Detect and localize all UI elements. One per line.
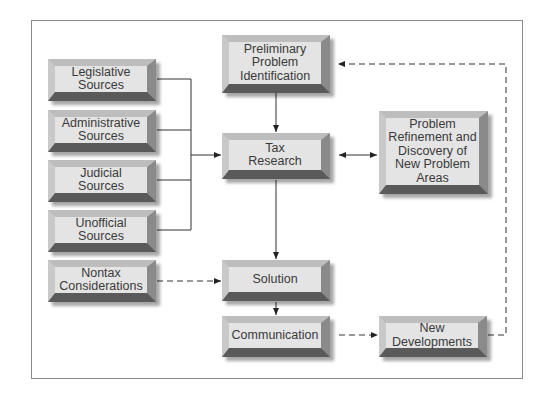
node-label: Considerations xyxy=(59,280,142,294)
node-unofficial-sources: UnofficialSources xyxy=(48,210,156,252)
newdev-to-preliminary-arrow xyxy=(338,64,506,335)
node-label: Sources xyxy=(62,130,141,144)
node-label: Unofficial xyxy=(75,217,126,231)
node-new-developments: NewDevelopments xyxy=(379,316,487,357)
node-label: Identification xyxy=(240,70,310,84)
node-label: Preliminary xyxy=(240,43,310,57)
node-label: Communication xyxy=(232,329,319,343)
node-administrative-sources: AdministrativeSources xyxy=(48,110,156,152)
node-preliminary-problem-identification: PreliminaryProblemIdentification xyxy=(222,35,330,93)
node-label: Sources xyxy=(78,180,124,194)
node-label: New Problem xyxy=(388,158,476,172)
node-label: Discovery of xyxy=(388,145,476,159)
node-label: Legislative xyxy=(71,66,130,80)
node-problem-refinement: ProblemRefinement andDiscovery ofNew Pro… xyxy=(379,111,488,194)
node-solution: Solution xyxy=(222,260,330,301)
node-label: Problem xyxy=(388,118,476,132)
node-label: Sources xyxy=(75,230,126,244)
node-label: Developments xyxy=(392,336,472,350)
node-label: Problem xyxy=(240,56,310,70)
node-label: Judicial xyxy=(78,167,124,181)
node-label: Solution xyxy=(252,273,297,287)
node-label: Tax xyxy=(248,142,302,156)
node-label: Nontax xyxy=(59,267,142,281)
node-tax-research: TaxResearch xyxy=(222,133,330,179)
node-legislative-sources: LegislativeSources xyxy=(48,59,156,101)
node-label: Sources xyxy=(71,79,130,93)
node-label: Refinement and xyxy=(388,131,476,145)
node-judicial-sources: JudicialSources xyxy=(48,160,156,202)
node-nontax-considerations: NontaxConsiderations xyxy=(48,260,156,302)
node-label: Research xyxy=(248,155,302,169)
node-label: Administrative xyxy=(62,117,141,131)
node-communication: Communication xyxy=(222,316,330,357)
node-label: Areas xyxy=(388,172,476,186)
node-label: New xyxy=(392,322,472,336)
